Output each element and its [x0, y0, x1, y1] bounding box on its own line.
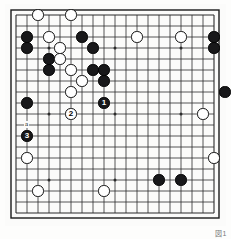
go-stone-white[interactable] — [21, 152, 32, 163]
go-stone-white[interactable] — [65, 9, 76, 20]
go-stone-black[interactable] — [87, 42, 98, 53]
go-stone-white[interactable] — [32, 9, 43, 20]
go-stone-black[interactable] — [76, 31, 87, 42]
go-stone-black[interactable] — [43, 53, 54, 64]
go-stone-white[interactable] — [197, 108, 208, 119]
go-stone-move-number: 1 — [102, 99, 106, 107]
go-stone-black[interactable] — [153, 174, 164, 185]
go-stone-move-number: 3 — [25, 132, 29, 140]
go-stone-white[interactable] — [54, 53, 65, 64]
go-stone-white[interactable] — [131, 31, 142, 42]
go-stone-black[interactable] — [175, 174, 186, 185]
go-stone-black[interactable] — [21, 31, 32, 42]
go-diagram-figure: 123 a 図1 — [0, 0, 231, 239]
go-stone-black[interactable] — [43, 64, 54, 75]
go-stone-white[interactable]: 2 — [65, 108, 76, 119]
go-stone-black[interactable] — [208, 31, 219, 42]
go-stone-black[interactable]: 1 — [98, 97, 109, 108]
go-stone-black[interactable] — [219, 86, 230, 97]
go-stone-move-number: 2 — [69, 110, 73, 118]
go-stone-black[interactable] — [87, 64, 98, 75]
go-stone-white[interactable] — [54, 42, 65, 53]
go-stone-white[interactable] — [208, 152, 219, 163]
go-board[interactable]: 123 a — [5, 4, 226, 226]
go-stone-black[interactable] — [98, 75, 109, 86]
go-stone-white[interactable] — [43, 31, 54, 42]
go-stone-black[interactable] — [21, 42, 32, 53]
go-stone-black[interactable]: 3 — [21, 130, 32, 141]
go-stone-white[interactable] — [175, 31, 186, 42]
go-stone-white[interactable] — [65, 64, 76, 75]
go-stone-white[interactable] — [65, 86, 76, 97]
go-stone-black[interactable] — [21, 97, 32, 108]
go-stone-white[interactable] — [32, 185, 43, 196]
go-point-marker: a — [24, 121, 29, 128]
go-stone-white[interactable] — [76, 75, 87, 86]
go-stone-black[interactable] — [208, 42, 219, 53]
go-stone-black[interactable] — [98, 64, 109, 75]
figure-caption: 図1 — [215, 228, 227, 238]
go-stone-white[interactable] — [98, 185, 109, 196]
go-board-container[interactable]: 123 a — [5, 4, 226, 226]
